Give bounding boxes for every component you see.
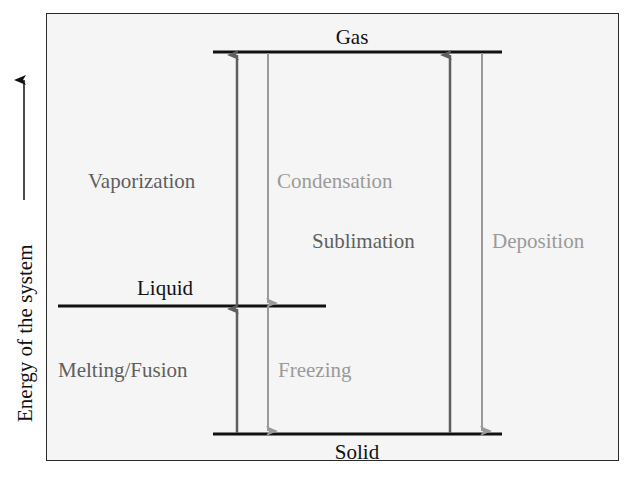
condensation-label: Condensation bbox=[277, 169, 393, 193]
gas-label: Gas bbox=[336, 25, 369, 49]
sublimation-label: Sublimation bbox=[312, 229, 415, 253]
freezing-label: Freezing bbox=[278, 358, 352, 382]
melting-label: Melting/Fusion bbox=[58, 358, 188, 382]
axis-label: Energy of the system bbox=[13, 245, 37, 423]
deposition-label: Deposition bbox=[492, 229, 585, 253]
energy-axis: Energy of the system bbox=[13, 80, 37, 422]
phase-change-diagram: Energy of the system Gas Liquid Solid Va… bbox=[0, 0, 631, 482]
solid-label: Solid bbox=[335, 440, 380, 464]
liquid-label: Liquid bbox=[137, 276, 193, 300]
vaporization-label: Vaporization bbox=[88, 169, 196, 193]
